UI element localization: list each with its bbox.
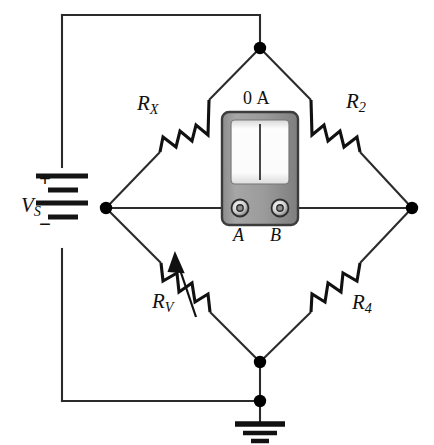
resistor-rx-zigzag: [160, 100, 209, 152]
wire-r4-upper: [360, 208, 412, 263]
voltage-source-label: VS: [21, 195, 41, 218]
terminal-a-inner: [237, 205, 243, 211]
node-top: [254, 42, 266, 54]
wire-rx-lower: [106, 152, 160, 208]
wire-top-rail: [62, 15, 260, 48]
arrow-head: [169, 254, 183, 272]
resistor-rx-label: RX: [137, 93, 159, 116]
battery-negative-sign: −: [39, 214, 51, 235]
node-bottom: [254, 356, 266, 368]
meter-terminal-a-label: A: [233, 226, 244, 244]
meter-terminal-b[interactable]: [272, 200, 289, 217]
resistor-rv-label: RV: [152, 291, 174, 314]
node-left: [100, 202, 112, 214]
galvanometer[interactable]: [222, 112, 298, 225]
node-right: [406, 202, 418, 214]
wheatstone-bridge-figure: RX R2 RV R4 VS + − 0 A A B: [0, 0, 434, 445]
wire-rv-lower: [210, 312, 260, 362]
wire-r4-lower: [260, 312, 311, 362]
arm-r4: [260, 208, 412, 362]
meter-reading-label: 0 A: [243, 89, 270, 107]
wire-r2-lower: [360, 152, 412, 208]
node-ground: [254, 395, 266, 407]
circuit-schematic: [0, 0, 434, 445]
battery-positive-sign: +: [39, 169, 51, 190]
resistor-r2-label: R2: [346, 91, 366, 114]
terminal-b-inner: [277, 205, 283, 211]
meter-terminal-b-label: B: [270, 226, 281, 244]
ground-symbol: [235, 424, 285, 441]
meter-terminal-a[interactable]: [232, 200, 249, 217]
resistor-r4-label: R4: [352, 292, 372, 315]
wire-rv-upper: [106, 208, 161, 263]
